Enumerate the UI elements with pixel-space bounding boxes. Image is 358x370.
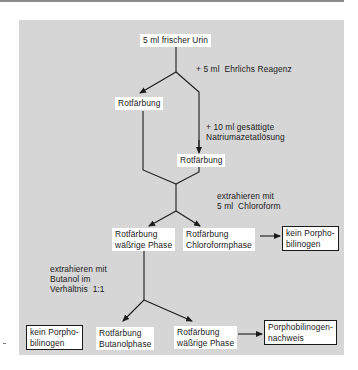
node-rotfaerbung-2: Rotfärbung	[177, 154, 225, 167]
node-rotfaerbung-1: Rotfärbung	[115, 97, 163, 110]
node-kein-porphobilinogen-2: kein Porpho- bilinogen	[26, 325, 83, 350]
node-butanolphase: Rotfärbung Butanolphase	[96, 327, 154, 350]
step-extract-butanol: extrahieren mit Butanol im Verhältnis 1:…	[50, 264, 107, 294]
node-porphobilinogen-nachweis: Porphobilinogen- nachweis	[264, 320, 337, 345]
flow-connectors	[0, 0, 358, 370]
node-waessrige-phase-1: Rotfärbung wäßrige Phase	[112, 228, 175, 251]
step-add-natrium: + 10 ml gesättigte Natriumazetatlösung	[206, 122, 285, 142]
node-kein-porphobilinogen-1: kein Porpho- bilinogen	[282, 226, 339, 251]
node-waessrige-phase-2: Rotfärbung wäßrige Phase	[174, 326, 237, 349]
start-node: 5 ml frischer Urin	[140, 34, 211, 47]
step-extract-chloroform: extrahieren mit 5 ml Chloroform	[217, 191, 281, 211]
step-add-ehrlich: + 5 ml Ehrlichs Reagenz	[196, 64, 292, 74]
node-chloroformphase: Rotfärbung Chloroformphase	[183, 228, 255, 251]
